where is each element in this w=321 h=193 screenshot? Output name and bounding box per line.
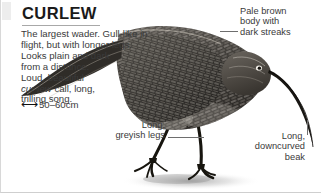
desc-line-5: Loud, beautiful <box>21 72 84 83</box>
callout-legs-line-2: greyish legs <box>115 130 165 140</box>
size-value: 50–60cm <box>39 99 78 110</box>
callout-pale-line-1: Pale brown <box>240 6 287 16</box>
leader-line-legs <box>168 137 204 138</box>
bird-head <box>222 52 271 96</box>
callout-pale-brown-body: Pale brown body with dark streaks <box>240 6 316 37</box>
callout-pale-line-3: dark streaks <box>240 27 291 37</box>
desc-line-6-rest: call, long, <box>52 83 95 94</box>
size-row: ⟷ 50–60cm <box>21 99 78 110</box>
field-guide-page: CURLEW The largest wader. Gull-like in f… <box>0 0 321 193</box>
desc-call-italic: cur-lew <box>21 83 52 94</box>
callout-beak-line-3: beak <box>285 152 305 162</box>
callout-long-downcurved-beak: Long, downcurved beak <box>239 131 305 162</box>
leader-line-beak <box>307 120 308 135</box>
callout-beak-line-1: Long, <box>282 131 305 141</box>
double-headed-arrow-icon: ⟷ <box>21 100 34 109</box>
species-description: The largest wader. Gull-like in flight, … <box>21 29 157 105</box>
desc-line-2: flight, but with longer legs. <box>21 39 132 50</box>
page-title: CURLEW <box>22 4 97 23</box>
title-underline <box>22 25 100 26</box>
callout-pale-line-2: body with <box>240 16 279 26</box>
page-edge-tab <box>2 2 11 20</box>
desc-line-4: from a distance. <box>21 61 89 72</box>
bird-feet <box>149 158 205 169</box>
leader-line-pale-brown-body <box>220 31 238 32</box>
desc-line-1: The largest wader. Gull-like in <box>21 28 147 39</box>
callout-long-greyish-legs: Long, greyish legs <box>97 120 165 141</box>
callout-beak-line-2: downcurved <box>255 141 305 151</box>
desc-line-3: Looks plain and dark <box>21 50 110 61</box>
ground-shadow <box>121 172 261 190</box>
bird-eye <box>256 65 262 70</box>
callout-legs-line-1: Long, <box>142 120 165 130</box>
